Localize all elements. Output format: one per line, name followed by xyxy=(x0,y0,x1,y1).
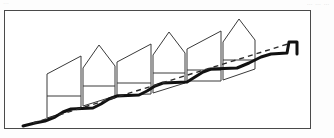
figure-frame xyxy=(4,10,311,129)
page-corner-mark: … xyxy=(3,0,13,6)
building-outline xyxy=(83,45,115,106)
figure-drawing xyxy=(5,11,310,128)
page-header-note: … … … xyxy=(272,0,330,7)
building-outline xyxy=(223,19,255,80)
figure-page: … … … … xyxy=(0,0,334,138)
